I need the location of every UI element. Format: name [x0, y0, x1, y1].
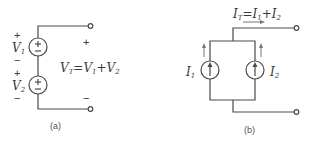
equation-vt: VT=V1+V2: [60, 62, 120, 76]
equation-it: IT=I1+I2: [233, 8, 281, 22]
arrow-up-icon: [253, 62, 258, 67]
v2-minus-sign: −: [14, 93, 20, 104]
v2-plus-sign: +: [14, 68, 20, 79]
wire-top-rail-b: [210, 41, 255, 61]
terminal-top-a: [88, 24, 93, 29]
wire-top-a: [38, 26, 88, 38]
terminal-minus-sign: −: [83, 93, 89, 104]
parallel-circuit-b: [201, 26, 299, 115]
v1-plus-sign: +: [14, 30, 20, 41]
terminal-bottom-b: [294, 110, 299, 115]
i1-label: I1: [186, 66, 195, 80]
v1-name: V: [12, 41, 21, 55]
wire-bottom-b: [233, 100, 294, 112]
wire-bottom-a: [38, 94, 88, 109]
caption-a: (a): [50, 122, 61, 131]
terminal-top-b: [294, 26, 299, 31]
terminal-plus-sign: +: [83, 37, 89, 48]
arrow-up-icon: [208, 62, 213, 67]
caption-b: (b): [244, 126, 255, 135]
terminal-bottom-a: [88, 107, 93, 112]
v2-name: V: [12, 79, 21, 93]
i2-label: I2: [270, 66, 279, 80]
v1-minus-sign: −: [14, 55, 20, 66]
wire-top-b: [233, 28, 294, 41]
wire-bottom-rail-b: [210, 79, 255, 100]
v2-sub: 2: [21, 86, 25, 94]
v1-sub: 1: [21, 48, 25, 56]
